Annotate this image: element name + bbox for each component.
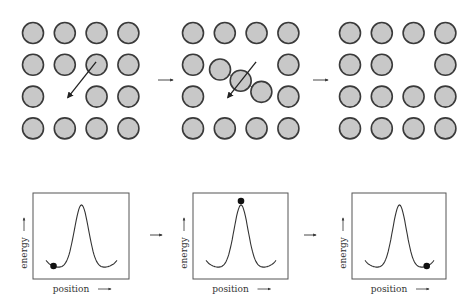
- y-axis-label: energy: [19, 236, 29, 269]
- energy-curve: [46, 205, 117, 267]
- vacancy-diffusion-figure: positionenergypositionenergypositionener…: [0, 0, 471, 303]
- energy-row: positionenergypositionenergypositionener…: [19, 193, 446, 294]
- atom: [371, 23, 392, 44]
- atom: [403, 86, 424, 107]
- atom: [371, 86, 392, 107]
- energy-plot-energy-initial: positionenergy: [19, 193, 129, 294]
- atom: [340, 86, 361, 107]
- displaced-atom: [251, 81, 272, 102]
- atom: [214, 118, 235, 139]
- atom: [54, 54, 75, 75]
- atom: [86, 54, 107, 75]
- atom: [118, 86, 139, 107]
- atom: [435, 54, 456, 75]
- atom: [435, 118, 456, 139]
- atom: [86, 86, 107, 107]
- atom: [183, 54, 204, 75]
- atom: [118, 118, 139, 139]
- atom: [340, 23, 361, 44]
- atom: [118, 54, 139, 75]
- atom: [435, 86, 456, 107]
- atom: [86, 118, 107, 139]
- atom: [371, 118, 392, 139]
- atom: [246, 118, 267, 139]
- atom: [23, 86, 44, 107]
- x-axis-label: position: [53, 284, 90, 294]
- atom: [278, 86, 299, 107]
- atom: [214, 23, 235, 44]
- atom: [278, 54, 299, 75]
- atom: [118, 23, 139, 44]
- particle-ball: [423, 263, 430, 270]
- particle-ball: [238, 198, 245, 205]
- atom: [278, 23, 299, 44]
- displaced-atom: [210, 59, 231, 80]
- lattice-row: [23, 23, 456, 139]
- lattice-panel-final: [340, 23, 456, 139]
- particle-ball: [50, 263, 57, 270]
- lattice-panel-initial: [23, 23, 139, 139]
- atom: [340, 54, 361, 75]
- atom: [183, 118, 204, 139]
- atom: [54, 23, 75, 44]
- energy-curve: [206, 205, 276, 267]
- atom: [435, 23, 456, 44]
- atom: [23, 118, 44, 139]
- atom: [183, 23, 204, 44]
- x-axis-label: position: [371, 284, 408, 294]
- atom: [183, 86, 204, 107]
- atom: [246, 23, 267, 44]
- atom: [403, 118, 424, 139]
- energy-plot-energy-transition: positionenergy: [179, 193, 288, 294]
- atom: [403, 23, 424, 44]
- energy-plot-energy-final: positionenergy: [338, 193, 446, 294]
- x-axis-label: position: [212, 284, 249, 294]
- atom: [278, 118, 299, 139]
- energy-curve: [365, 205, 434, 267]
- atom: [371, 54, 392, 75]
- atom: [54, 118, 75, 139]
- atom: [23, 54, 44, 75]
- atom: [86, 23, 107, 44]
- atom: [340, 118, 361, 139]
- lattice-panel-transition: [183, 23, 299, 139]
- atom: [23, 23, 44, 44]
- y-axis-label: energy: [179, 236, 189, 269]
- y-axis-label: energy: [338, 236, 348, 269]
